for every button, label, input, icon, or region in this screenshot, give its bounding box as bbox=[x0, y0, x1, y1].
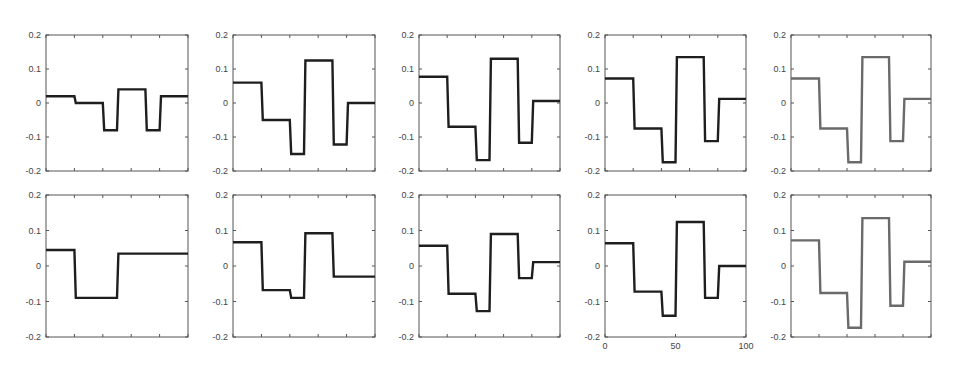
y-tick-label: 0.2 bbox=[215, 190, 228, 200]
y-tick-label: 0.2 bbox=[401, 190, 414, 200]
y-tick-label: -0.2 bbox=[25, 332, 41, 342]
subplot-0-1: -0.2-0.100.10.2 bbox=[212, 30, 375, 176]
y-tick-label: 0 bbox=[595, 261, 600, 271]
y-tick-label: -0.1 bbox=[25, 132, 41, 142]
y-tick-label: 0 bbox=[36, 98, 41, 108]
y-tick-label: 0 bbox=[36, 261, 41, 271]
y-tick-label: -0.2 bbox=[212, 166, 228, 176]
y-tick-label: 0 bbox=[223, 261, 228, 271]
y-tick-label: -0.2 bbox=[770, 166, 786, 176]
subplot-0-2: -0.2-0.100.10.2 bbox=[398, 30, 560, 176]
x-tick-label: 50 bbox=[670, 341, 680, 351]
y-tick-label: -0.2 bbox=[398, 166, 414, 176]
y-tick-label: -0.2 bbox=[584, 166, 600, 176]
y-tick-label: 0.1 bbox=[773, 64, 786, 74]
y-tick-label: 0.2 bbox=[28, 30, 41, 40]
subplot-grid: -0.2-0.100.10.2-0.2-0.100.10.2-0.2-0.100… bbox=[0, 0, 957, 365]
figure-canvas: -0.2-0.100.10.2-0.2-0.100.10.2-0.2-0.100… bbox=[0, 0, 957, 365]
y-tick-label: 0 bbox=[409, 261, 414, 271]
y-tick-label: -0.2 bbox=[212, 332, 228, 342]
y-tick-label: 0 bbox=[781, 261, 786, 271]
y-tick-label: 0.1 bbox=[587, 64, 600, 74]
y-tick-label: 0.1 bbox=[28, 64, 41, 74]
subplot-0-0: -0.2-0.100.10.2 bbox=[25, 30, 188, 176]
y-tick-label: -0.1 bbox=[398, 132, 414, 142]
subplot-1-0: -0.2-0.100.10.2 bbox=[25, 190, 188, 342]
y-tick-label: 0.2 bbox=[401, 30, 414, 40]
y-tick-label: -0.1 bbox=[770, 132, 786, 142]
y-tick-label: 0.2 bbox=[215, 30, 228, 40]
subplot-1-2: -0.2-0.100.10.2 bbox=[398, 190, 560, 342]
y-tick-label: 0.2 bbox=[587, 30, 600, 40]
y-tick-label: -0.1 bbox=[770, 297, 786, 307]
x-tick-label: 0 bbox=[602, 341, 607, 351]
y-tick-label: 0.1 bbox=[401, 64, 414, 74]
y-tick-label: -0.1 bbox=[212, 297, 228, 307]
y-tick-label: 0.1 bbox=[773, 226, 786, 236]
y-tick-label: -0.1 bbox=[398, 297, 414, 307]
y-tick-label: -0.2 bbox=[25, 166, 41, 176]
subplot-0-3: -0.2-0.100.10.2 bbox=[584, 30, 746, 176]
subplot-1-3: -0.2-0.100.10.2050100 bbox=[584, 190, 753, 351]
y-tick-label: -0.1 bbox=[25, 297, 41, 307]
y-tick-label: 0 bbox=[409, 98, 414, 108]
y-tick-label: 0.1 bbox=[28, 226, 41, 236]
y-tick-label: 0.2 bbox=[28, 190, 41, 200]
y-tick-label: 0.1 bbox=[215, 64, 228, 74]
y-tick-label: 0 bbox=[595, 98, 600, 108]
y-tick-label: 0.2 bbox=[773, 190, 786, 200]
y-tick-label: 0 bbox=[781, 98, 786, 108]
subplot-1-1: -0.2-0.100.10.2 bbox=[212, 190, 375, 342]
y-tick-label: -0.1 bbox=[212, 132, 228, 142]
y-tick-label: 0.1 bbox=[587, 226, 600, 236]
x-tick-label: 100 bbox=[738, 341, 753, 351]
y-tick-label: -0.1 bbox=[584, 297, 600, 307]
y-tick-label: 0 bbox=[223, 98, 228, 108]
y-tick-label: -0.1 bbox=[584, 132, 600, 142]
y-tick-label: -0.2 bbox=[770, 332, 786, 342]
y-tick-label: 0.1 bbox=[215, 226, 228, 236]
y-tick-label: 0.2 bbox=[773, 30, 786, 40]
y-tick-label: -0.2 bbox=[398, 332, 414, 342]
y-tick-label: -0.2 bbox=[584, 332, 600, 342]
subplot-0-4: -0.2-0.100.10.2 bbox=[770, 30, 931, 176]
y-tick-label: 0.2 bbox=[587, 190, 600, 200]
y-tick-label: 0.1 bbox=[401, 226, 414, 236]
subplot-1-4: -0.2-0.100.10.2 bbox=[770, 190, 931, 342]
